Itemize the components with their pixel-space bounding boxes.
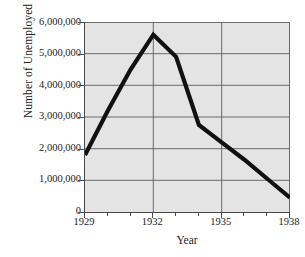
- x-tick-label-1935: 1935: [198, 216, 244, 227]
- horizontal-gridlines: [85, 23, 290, 181]
- y-tick-label-6000000: 6,000,000: [11, 17, 81, 27]
- x-tick-label-1938: 1938: [266, 216, 305, 227]
- plot-area: [84, 22, 290, 213]
- unemployment-series-line: [85, 35, 290, 198]
- y-tick-label-2000000: 2,000,000: [11, 143, 81, 153]
- y-tick-label-5000000: 5,000,000: [11, 48, 81, 58]
- unemployment-line-chart: Number of Unemployed 6,000,000 5,000,000…: [0, 0, 305, 257]
- y-tick-label-0: 0: [11, 206, 81, 216]
- y-tick-label-1000000: 1,000,000: [11, 174, 81, 184]
- x-axis-title: Year: [84, 234, 290, 246]
- x-tick-label-1929: 1929: [61, 216, 107, 227]
- y-tick-label-4000000: 4,000,000: [11, 80, 81, 90]
- x-tick-label-1932: 1932: [129, 216, 175, 227]
- y-tick-label-3000000: 3,000,000: [11, 111, 81, 121]
